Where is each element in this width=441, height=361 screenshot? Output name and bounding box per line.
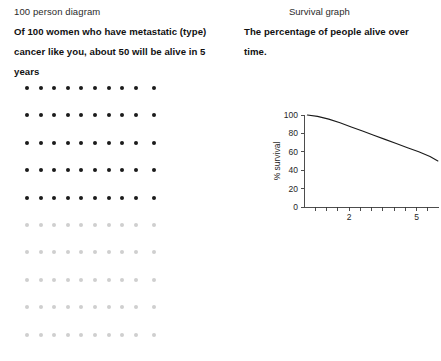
- y-tick-label: 100: [284, 110, 298, 120]
- person-dot-deceased: [93, 250, 97, 254]
- dot-row: [25, 305, 153, 311]
- person-dot-deceased: [134, 250, 138, 254]
- person-dot-deceased: [25, 223, 29, 227]
- person-dot-deceased: [107, 333, 111, 337]
- person-dot-alive: [120, 168, 124, 172]
- person-dot-deceased: [93, 333, 97, 337]
- person-dot-deceased: [39, 333, 43, 337]
- person-dot-deceased: [152, 223, 156, 227]
- person-dot-deceased: [66, 250, 70, 254]
- person-dot-alive: [152, 196, 156, 200]
- person-dot-alive: [39, 113, 43, 117]
- person-dot-deceased: [93, 278, 97, 282]
- person-dot-deceased: [39, 278, 43, 282]
- person-dot-deceased: [120, 250, 124, 254]
- person-dot-deceased: [52, 333, 56, 337]
- person-dot-deceased: [66, 278, 70, 282]
- y-tick-label: 40: [289, 165, 299, 175]
- person-dot-alive: [79, 196, 83, 200]
- person-dot-alive: [52, 86, 56, 90]
- person-dot-alive: [107, 141, 111, 145]
- dot-row: [25, 86, 153, 92]
- person-dot-alive: [120, 196, 124, 200]
- person-dot-deceased: [25, 305, 29, 309]
- person-dot-deceased: [52, 250, 56, 254]
- person-dot-grid: [25, 86, 153, 361]
- person-dot-deceased: [79, 250, 83, 254]
- person-dot-alive: [134, 196, 138, 200]
- person-dot-alive: [25, 113, 29, 117]
- person-dot-deceased: [107, 250, 111, 254]
- person-dot-deceased: [39, 223, 43, 227]
- person-dot-alive: [52, 113, 56, 117]
- person-dot-deceased: [66, 333, 70, 337]
- person-dot-deceased: [152, 305, 156, 309]
- person-diagram-caption: 100 person diagram: [14, 6, 100, 17]
- person-dot-deceased: [93, 305, 97, 309]
- person-dot-alive: [107, 196, 111, 200]
- person-dot-alive: [152, 86, 156, 90]
- person-dot-deceased: [120, 333, 124, 337]
- person-dot-deceased: [25, 333, 29, 337]
- dot-row: [25, 333, 153, 339]
- person-dot-alive: [25, 141, 29, 145]
- survival-graph-panel: Survival graph The percentage of people …: [228, 0, 441, 361]
- person-dot-alive: [93, 86, 97, 90]
- survival-chart: 02040608010025% survival: [266, 105, 441, 230]
- person-dot-alive: [120, 113, 124, 117]
- person-dot-alive: [66, 196, 70, 200]
- person-dot-deceased: [134, 333, 138, 337]
- person-dot-deceased: [79, 333, 83, 337]
- person-dot-deceased: [107, 305, 111, 309]
- person-dot-deceased: [152, 278, 156, 282]
- person-dot-deceased: [152, 250, 156, 254]
- person-dot-alive: [39, 141, 43, 145]
- person-dot-alive: [79, 86, 83, 90]
- person-dot-deceased: [79, 305, 83, 309]
- person-dot-alive: [25, 86, 29, 90]
- person-dot-alive: [25, 168, 29, 172]
- person-dot-deceased: [120, 223, 124, 227]
- person-dot-deceased: [134, 305, 138, 309]
- person-dot-alive: [134, 86, 138, 90]
- person-dot-alive: [39, 86, 43, 90]
- person-dot-alive: [39, 196, 43, 200]
- person-dot-deceased: [52, 278, 56, 282]
- person-dot-alive: [93, 113, 97, 117]
- person-dot-alive: [39, 168, 43, 172]
- person-dot-deceased: [107, 223, 111, 227]
- person-dot-deceased: [107, 278, 111, 282]
- person-dot-alive: [134, 168, 138, 172]
- person-dot-alive: [152, 141, 156, 145]
- person-dot-alive: [66, 141, 70, 145]
- person-dot-alive: [152, 113, 156, 117]
- person-dot-deceased: [79, 278, 83, 282]
- dot-row: [25, 113, 153, 119]
- person-dot-deceased: [39, 305, 43, 309]
- person-dot-deceased: [134, 278, 138, 282]
- y-tick-label: 80: [289, 128, 299, 138]
- person-dot-deceased: [52, 305, 56, 309]
- person-dot-deceased: [52, 223, 56, 227]
- person-dot-alive: [120, 86, 124, 90]
- person-dot-alive: [79, 141, 83, 145]
- person-dot-deceased: [152, 333, 156, 337]
- person-dot-alive: [79, 113, 83, 117]
- y-axis-title: % survival: [272, 142, 282, 181]
- person-dot-alive: [66, 168, 70, 172]
- person-diagram-statement: Of 100 women who have metastatic (type) …: [14, 22, 220, 82]
- dot-row: [25, 278, 153, 284]
- person-dot-alive: [93, 141, 97, 145]
- person-dot-alive: [134, 141, 138, 145]
- dot-row: [25, 250, 153, 256]
- dot-row: [25, 141, 153, 147]
- person-dot-alive: [52, 141, 56, 145]
- person-diagram-panel: 100 person diagram Of 100 women who have…: [0, 0, 228, 361]
- person-dot-alive: [120, 141, 124, 145]
- survival-graph-caption: Survival graph: [289, 6, 350, 17]
- dot-row: [25, 168, 153, 174]
- survival-graph-statement: The percentage of people alive over time…: [244, 22, 434, 62]
- person-dot-alive: [107, 113, 111, 117]
- x-tick-label: 2: [347, 212, 352, 222]
- person-dot-alive: [107, 86, 111, 90]
